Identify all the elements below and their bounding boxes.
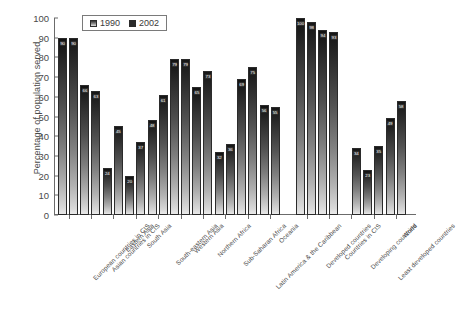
bar-group: 6663 <box>80 18 101 215</box>
bar-value-label: 93 <box>331 35 337 40</box>
legend-label-2002: 2002 <box>139 18 159 28</box>
bar-1990[interactable]: 23 <box>363 170 372 215</box>
bar-value-label: 20 <box>127 179 133 184</box>
bar-value-label: 36 <box>227 147 233 152</box>
bar-2002[interactable]: 61 <box>159 95 168 215</box>
bar-1990[interactable]: 20 <box>125 176 134 215</box>
bar-2002[interactable]: 45 <box>114 126 123 215</box>
bar-value-label: 58 <box>398 104 404 109</box>
bar-2002[interactable]: 75 <box>248 67 257 215</box>
bar-1990[interactable]: 56 <box>260 105 269 215</box>
x-axis-tick-mark <box>248 215 249 219</box>
bar-group: 3236 <box>215 18 236 215</box>
bar-2002[interactable]: 35 <box>374 146 383 215</box>
bar-value-label: 56 <box>261 108 267 113</box>
bar-2002[interactable]: 93 <box>329 32 338 215</box>
bar-value-label: 23 <box>365 173 371 178</box>
bar-value-label: 100 <box>296 21 304 26</box>
bar-2002[interactable]: 90 <box>69 38 78 215</box>
bar-series-container: 9090666324452037486179796573323669755655… <box>54 18 416 215</box>
y-axis-tick-label: 10 <box>38 190 54 201</box>
plot-area: 0102030405060708090100 90906663244520374… <box>54 18 416 215</box>
bar-1990[interactable]: 32 <box>215 152 224 215</box>
bar-group: 7979 <box>170 18 191 215</box>
bar-group: 9090 <box>58 18 79 215</box>
bar-group: 4958 <box>386 18 407 215</box>
bar-group: 2037 <box>125 18 146 215</box>
y-axis-tick-label: 100 <box>33 13 54 24</box>
legend-swatch-1990-icon <box>90 20 97 27</box>
x-axis-tick-mark <box>225 215 226 219</box>
y-axis-tick-label: 80 <box>38 52 54 63</box>
bar-group: 2445 <box>103 18 124 215</box>
legend-item-2002[interactable]: 2002 <box>129 18 159 28</box>
bar-value-label: 48 <box>149 123 155 128</box>
bar-value-label: 69 <box>239 82 245 87</box>
legend-item-1990[interactable]: 1990 <box>90 18 120 28</box>
x-axis-tick-mark <box>329 215 330 219</box>
x-axis-tick-mark <box>91 215 92 219</box>
bar-2002[interactable]: 79 <box>181 59 190 215</box>
bar-group: 2335 <box>363 18 384 215</box>
bar-1990[interactable]: 94 <box>318 30 327 215</box>
x-axis-labels: European countries in CISAsian countries… <box>54 222 416 310</box>
y-axis-tick-label: 30 <box>38 150 54 161</box>
bar-2002[interactable]: 55 <box>271 107 280 215</box>
bar-1990[interactable]: 48 <box>148 120 157 215</box>
y-axis-tick-label: 50 <box>38 111 54 122</box>
bar-value-label: 65 <box>194 90 200 95</box>
bar-group: 34 <box>341 18 362 215</box>
bar-value-label: 24 <box>104 171 110 176</box>
x-axis-tick-mark <box>351 215 352 219</box>
y-axis-tick-label: 0 <box>44 210 54 221</box>
y-axis-tick-label: 60 <box>38 91 54 102</box>
bar-value-label: 79 <box>172 62 178 67</box>
bar-2002[interactable]: 58 <box>397 101 406 215</box>
bar-value-label: 98 <box>309 25 315 30</box>
bar-group: 5655 <box>260 18 281 215</box>
bar-value-label: 45 <box>115 129 121 134</box>
bar-value-label: 73 <box>205 74 211 79</box>
bar-2002[interactable]: 34 <box>352 148 361 215</box>
bar-2002[interactable]: 63 <box>91 91 100 215</box>
bar-1990[interactable]: 69 <box>237 79 246 215</box>
bar-1990[interactable]: 65 <box>192 87 201 215</box>
bar-1990[interactable]: 24 <box>103 168 112 215</box>
bar-1990[interactable]: 49 <box>386 118 395 215</box>
bar-group: 4861 <box>148 18 169 215</box>
bar-1990[interactable]: 90 <box>58 38 67 215</box>
x-axis-tick-mark <box>396 215 397 219</box>
x-axis-tick-mark <box>307 215 308 219</box>
chart-legend: 1990 2002 <box>82 15 167 31</box>
bar-1990[interactable]: 66 <box>80 85 89 215</box>
bar-2002[interactable]: 73 <box>203 71 212 215</box>
bar-group: 6975 <box>237 18 258 215</box>
bar-1990[interactable]: 79 <box>170 59 179 215</box>
bar-value-label: 35 <box>376 149 382 154</box>
x-axis-tick-mark <box>181 215 182 219</box>
bar-value-label: 37 <box>138 145 144 150</box>
bar-2002[interactable]: 36 <box>226 144 235 215</box>
x-axis-tick-mark <box>374 215 375 219</box>
bar-value-label: 34 <box>353 151 359 156</box>
y-axis-tick-label: 40 <box>38 131 54 142</box>
bar-value-label: 94 <box>320 33 326 38</box>
x-axis-tick-mark <box>158 215 159 219</box>
bar-value-label: 49 <box>387 121 393 126</box>
legend-swatch-2002-icon <box>129 20 136 27</box>
x-axis-label: World <box>401 222 418 239</box>
x-axis-tick-mark <box>113 215 114 219</box>
bar-value-label: 32 <box>216 155 222 160</box>
bar-value-label: 90 <box>71 41 77 46</box>
bar-1990[interactable]: 100 <box>296 18 305 215</box>
bar-2002[interactable]: 98 <box>307 22 316 215</box>
bar-value-label: 79 <box>183 62 189 67</box>
bar-2002[interactable]: 37 <box>136 142 145 215</box>
bar-group: 6573 <box>192 18 213 215</box>
bar-value-label: 90 <box>60 41 66 46</box>
bar-group: 10098 <box>296 18 317 215</box>
x-axis-label: Asian countries in CIS <box>110 222 161 273</box>
x-axis-tick-mark <box>69 215 70 219</box>
y-axis-tick-label: 20 <box>38 170 54 181</box>
